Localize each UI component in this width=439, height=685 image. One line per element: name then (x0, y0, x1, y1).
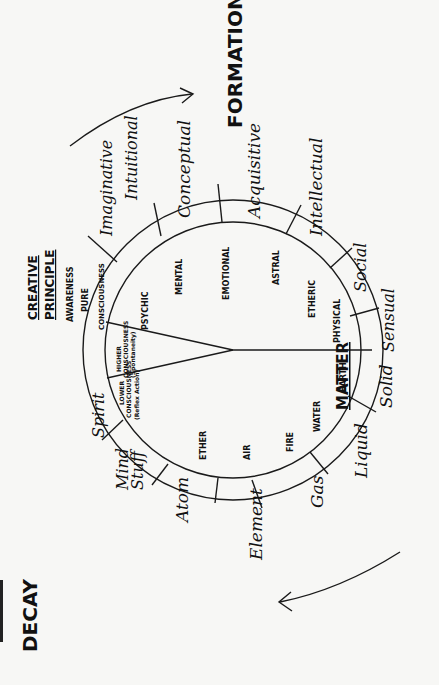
element-label: Element (246, 488, 266, 561)
fire-label: FIRE (286, 432, 295, 452)
spirit-label: Spirit (89, 392, 108, 438)
lower-consciousness-line2: CONSCIOUSNESS (125, 361, 132, 418)
mental-label: MENTAL (175, 259, 184, 295)
pure-consciousness-label: CONSCIOUSNESS (98, 263, 106, 330)
creative-principle-line2: PRINCIPLE (43, 250, 57, 320)
mind-stuff-line2: Stuff (128, 448, 147, 490)
awareness-label: AWARENESS (66, 266, 75, 322)
sensual-label: Sensual (379, 288, 398, 352)
cycle-diagram: FORMATION DECAY MATTER CREATIVE PRINCIPL… (0, 0, 439, 685)
ether-label: ETHER (199, 431, 208, 460)
solid-label: Solid (376, 364, 396, 408)
acquisitive-label: Acquisitive (244, 123, 264, 220)
decay-arrow (280, 552, 400, 602)
creative-principle-line1: CREATIVE (26, 255, 40, 320)
water-label: WATER (313, 401, 322, 432)
air-label: AIR (243, 445, 252, 460)
intellectual-label: Intellectual (306, 138, 326, 237)
formation-label: FORMATION (223, 0, 247, 128)
lower-consciousness-line3: (Reflex Action) (133, 370, 140, 420)
etheric-label: ETHERIC (308, 280, 317, 318)
pure-label: PURE (81, 288, 90, 312)
liquid-label: Liquid (351, 423, 371, 479)
decay-label: DECAY (18, 578, 42, 652)
gas-label: Gas (307, 475, 327, 508)
lower-consciousness-line1: LOWER (118, 381, 125, 405)
higher-consciousness-line1: HIGHER (115, 346, 122, 372)
intuitional-label: Intuitional (122, 115, 141, 201)
imaginative-label: Imaginative (97, 140, 116, 237)
atom-label: Atom (172, 477, 192, 524)
physical-label: PHYSICAL (333, 299, 342, 343)
conceptual-label: Conceptual (174, 120, 194, 218)
psychic-label: PSYCHIC (141, 291, 150, 330)
emotional-label: EMOTIONAL (222, 247, 231, 300)
earth-label: EARTH (339, 362, 348, 392)
astral-label: ASTRAL (272, 250, 281, 285)
social-label: Social (351, 243, 370, 292)
